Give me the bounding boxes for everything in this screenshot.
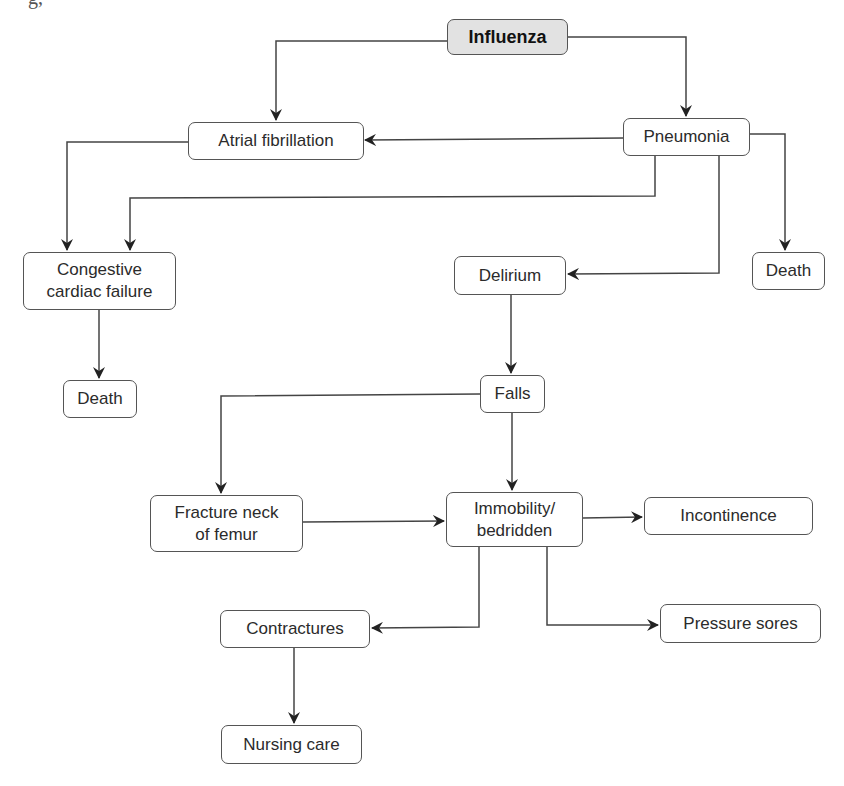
edge-pneumonia-to-death (750, 134, 785, 250)
node-contractures: Contractures (220, 610, 370, 648)
node-pneumonia: Pneumonia (623, 118, 750, 156)
edge-immobility-to-contractures (372, 546, 479, 628)
edge-atrial-fibrillation-to-ccf (67, 142, 188, 250)
node-nursing-care: Nursing care (221, 725, 362, 764)
node-label: Pneumonia (643, 126, 729, 148)
node-immobility-bedridden: Immobility/ bedridden (446, 492, 583, 547)
edge-immobility-to-incontinence (583, 517, 642, 518)
edge-immobility-to-pressure-sores (547, 546, 658, 625)
node-label: Incontinence (680, 505, 776, 527)
edge-influenza-to-pneumonia (568, 37, 686, 116)
edge-pneumonia-to-delirium (568, 155, 719, 274)
node-congestive-cardiac-failure: Congestive cardiac failure (23, 252, 176, 310)
node-label: Nursing care (243, 734, 339, 756)
node-label: Fracture neck of femur (175, 502, 279, 546)
node-pressure-sores: Pressure sores (660, 604, 821, 643)
node-label: Falls (495, 383, 531, 405)
node-label: Atrial fibrillation (218, 130, 333, 152)
node-atrial-fibrillation: Atrial fibrillation (188, 122, 364, 160)
node-influenza: Influenza (447, 19, 568, 55)
edge-falls-to-fracture (221, 394, 480, 493)
node-fracture-neck-of-femur: Fracture neck of femur (150, 495, 303, 552)
node-label: Pressure sores (683, 613, 797, 635)
node-incontinence: Incontinence (644, 497, 813, 535)
flowchart-canvas: g, (0, 0, 844, 786)
edge-pneumonia-to-atrial-fibrillation (365, 138, 623, 140)
node-label: Congestive cardiac failure (47, 259, 153, 303)
node-death-right: Death (752, 252, 825, 290)
node-label: Contractures (246, 618, 343, 640)
node-delirium: Delirium (454, 256, 566, 295)
node-label: Influenza (468, 26, 546, 48)
node-label: Death (77, 388, 122, 410)
node-falls: Falls (480, 375, 545, 413)
edge-fracture-to-immobility (303, 521, 444, 522)
node-label: Death (766, 260, 811, 282)
edge-influenza-to-atrial-fibrillation (276, 41, 447, 120)
node-label: Delirium (479, 265, 541, 287)
node-death-left: Death (63, 380, 137, 418)
node-label: Immobility/ bedridden (474, 498, 555, 542)
edge-pneumonia-to-ccf (130, 155, 655, 250)
